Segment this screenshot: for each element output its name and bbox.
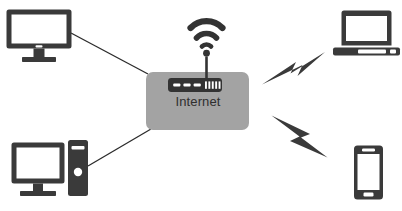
- monitor-screen-frame: [7, 10, 72, 49]
- laptop-icon[interactable]: [333, 11, 400, 56]
- wifi-dot: [203, 50, 210, 57]
- pc-monitor-neck: [33, 184, 43, 192]
- pc-tower-power-button: [74, 168, 82, 176]
- link-smartphone-bolt: [272, 116, 328, 158]
- wifi-arc-inner: [202, 45, 211, 47]
- wifi-arc-outer: [191, 21, 223, 28]
- phone-body-frame: [354, 146, 383, 200]
- network-diagram: Internet: [0, 0, 402, 211]
- pc-monitor-frame: [12, 143, 65, 184]
- router-icon: [168, 78, 222, 92]
- desktop-computer-tower-icon[interactable]: [12, 140, 89, 196]
- pc-monitor-base: [20, 191, 56, 196]
- monitor-neck: [34, 49, 45, 58]
- link-tower-line: [88, 129, 151, 166]
- router-port-4: [215, 81, 217, 88]
- router-port-1: [205, 81, 207, 88]
- monitor-base: [22, 57, 56, 62]
- laptop-base-right-accent: [390, 50, 396, 54]
- link-monitor-line: [71, 33, 148, 74]
- monitor-power-indicator: [36, 45, 43, 47]
- router-port-5: [219, 81, 221, 88]
- diagram-canvas: [0, 0, 402, 211]
- laptop-trackpad-notch: [358, 50, 386, 54]
- router-led-3: [194, 84, 201, 87]
- router-led-2: [183, 84, 190, 87]
- lightning-bolt-icon-lower: [272, 116, 328, 158]
- wifi-signal-icon: [191, 21, 223, 80]
- smartphone-icon[interactable]: [354, 146, 383, 200]
- router-led-1: [173, 84, 180, 87]
- desktop-monitor-icon[interactable]: [7, 10, 72, 63]
- phone-home-button: [364, 193, 374, 197]
- pc-tower-drive-slot: [72, 146, 85, 149]
- link-laptop-bolt: [262, 52, 325, 85]
- wifi-arc-middle: [197, 34, 217, 38]
- phone-earpiece-slot: [362, 149, 375, 152]
- router-port-3: [212, 81, 214, 88]
- lightning-bolt-icon-upper: [262, 52, 325, 85]
- laptop-screen-frame: [342, 11, 392, 46]
- router-port-2: [208, 81, 210, 88]
